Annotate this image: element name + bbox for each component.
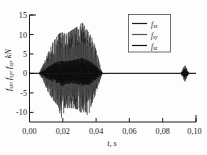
y-tick-label: 5: [23, 50, 27, 59]
chart-figure: 15 10 5 0 -5 -10 0,00 0,02 0,04 0,06 0,0…: [0, 0, 207, 155]
x-tick-label: 0,10: [187, 127, 201, 136]
legend-box: [129, 15, 171, 53]
x-tick-label: 0,02: [56, 127, 70, 136]
x-tick-label: 0,06: [122, 127, 136, 136]
x-tick-label: 0,00: [22, 127, 36, 136]
force-time-plot: 15 10 5 0 -5 -10 0,00 0,02 0,04 0,06 0,0…: [0, 0, 207, 155]
y-axis-title: fsx, fsy, fsz, kN: [4, 49, 14, 91]
legend: fsx fsy fsz: [129, 15, 171, 53]
x-tick-label: 0,04: [89, 127, 103, 136]
y-tick-label: -5: [20, 89, 27, 98]
y-tick-label: -10: [16, 108, 27, 117]
x-axis-title-text: t, s: [107, 139, 117, 148]
y-tick-label: 15: [19, 11, 27, 20]
x-axis-title: t, s: [107, 139, 117, 148]
svg-text:fsx, fsy, fsz, kN: fsx, fsy, fsz, kN: [4, 49, 14, 91]
x-tick-label: 0,08: [156, 127, 170, 136]
y-tick-label: 0: [23, 69, 27, 78]
y-axis-unit: kN: [4, 49, 13, 59]
y-tick-label: 10: [19, 31, 27, 40]
